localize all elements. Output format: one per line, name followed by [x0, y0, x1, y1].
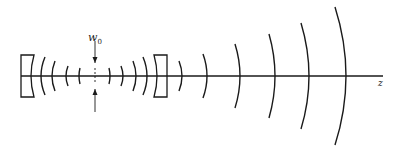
arrow-up-icon [93, 89, 98, 95]
resonator-diagram [0, 0, 400, 152]
waist-label: w0 [88, 32, 102, 46]
z-axis-label: z [378, 79, 383, 88]
waist-subscript: 0 [97, 38, 101, 46]
arrow-down-icon [93, 57, 98, 63]
waist-symbol: w [88, 31, 97, 44]
